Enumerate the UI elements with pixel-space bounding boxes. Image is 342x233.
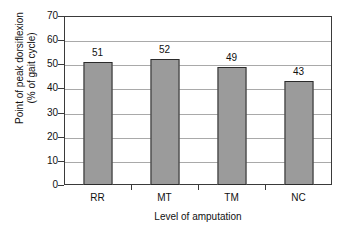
y-axis-tick-label: 30 [32, 108, 58, 118]
x-axis-tick-label: TM [224, 192, 238, 204]
x-axis-tick-label: NC [291, 192, 305, 204]
bar-value-label: 51 [92, 48, 103, 58]
x-axis-tick-label: RR [90, 192, 104, 204]
y-axis-tick-label: 40 [32, 83, 58, 93]
y-axis-tick-label: 10 [32, 156, 58, 166]
y-axis-tick-label: 60 [32, 35, 58, 45]
x-axis-tick-mark [265, 185, 266, 190]
x-axis-tick-mark [198, 185, 199, 190]
bar-value-label: 43 [293, 67, 304, 77]
y-axis-tick-label: 20 [32, 132, 58, 142]
bar [284, 81, 313, 185]
bar-value-label: 49 [226, 53, 237, 63]
bar-value-label: 52 [159, 45, 170, 55]
x-axis-tick-labels: RRMTTMNC [64, 192, 332, 206]
bars-layer: 51524943 [64, 16, 332, 185]
bar-slot: 49 [198, 16, 265, 185]
bar-chart-figure: Point of peak dorsiflexion (% of gait cy… [0, 0, 342, 233]
y-axis-title-line-1: Point of peak dorsiflexion [14, 0, 26, 148]
bar [83, 62, 112, 185]
y-axis-tick-label: 50 [32, 59, 58, 69]
y-axis-tick-label: 70 [32, 11, 58, 21]
y-axis-tick-label: 0 [32, 180, 58, 190]
x-axis-tick-mark [131, 185, 132, 190]
bar-slot: 43 [265, 16, 332, 185]
bar-slot: 51 [64, 16, 131, 185]
y-axis-tick-labels: 010203040506070 [32, 16, 58, 185]
bar [150, 59, 179, 185]
y-axis-tick-mark [58, 185, 64, 186]
x-axis-tick-label: MT [157, 192, 171, 204]
x-axis-title: Level of amputation [64, 211, 332, 223]
bar [217, 67, 246, 185]
bar-slot: 52 [131, 16, 198, 185]
